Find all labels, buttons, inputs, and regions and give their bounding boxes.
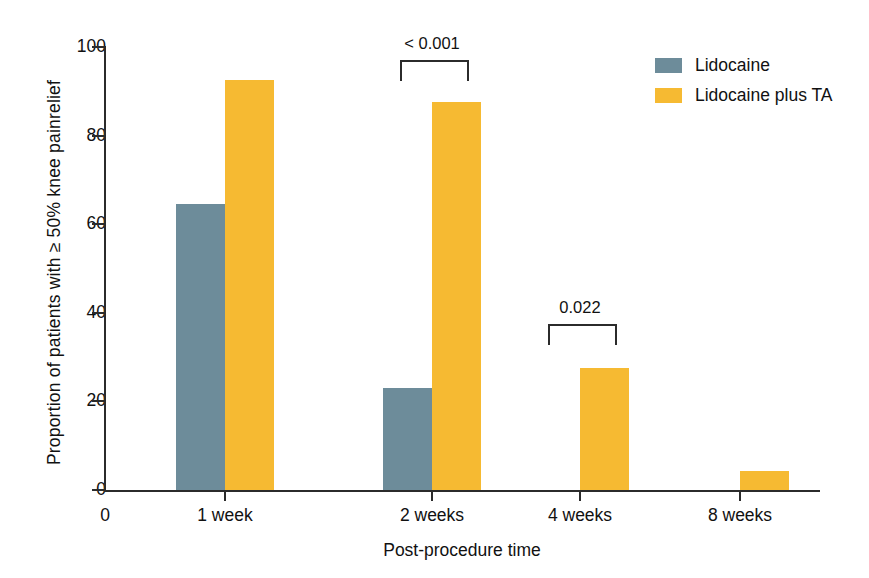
x-tick-mark: [739, 490, 741, 501]
y-axis-line: [104, 47, 106, 491]
legend-item[interactable]: Lidocaine: [655, 55, 833, 76]
x-tick-label: 4 weeks: [548, 505, 612, 526]
bar[interactable]: [383, 388, 432, 490]
y-axis-title: Proportion of patients with ≥ 50% knee p…: [44, 23, 65, 523]
x-axis-title: Post-procedure time: [104, 540, 820, 561]
bar[interactable]: [432, 102, 481, 490]
p-value-label: 0.022: [559, 298, 600, 317]
legend-label: Lidocaine: [695, 55, 770, 76]
legend-item[interactable]: Lidocaine plus TA: [655, 85, 833, 106]
legend-swatch-lidocaine-plus-ta: [655, 88, 682, 103]
x-tick-mark: [431, 490, 433, 501]
x-tick-label: 1 week: [197, 505, 252, 526]
x-axis-line: [104, 490, 820, 492]
x-tick-mark: [224, 490, 226, 501]
bar[interactable]: [176, 204, 225, 490]
bar[interactable]: [580, 368, 629, 490]
bar[interactable]: [740, 471, 789, 490]
x-tick-mark: [579, 490, 581, 501]
legend: Lidocaine Lidocaine plus TA: [655, 55, 833, 115]
legend-swatch-lidocaine: [655, 58, 682, 73]
x-tick-label: 8 weeks: [708, 505, 772, 526]
significance-bracket: [548, 324, 617, 345]
x-tick-label-origin: 0: [100, 505, 110, 526]
bar[interactable]: [225, 80, 274, 490]
x-tick-label: 2 weeks: [400, 505, 464, 526]
bar-chart-figure: Proportion of patients with ≥ 50% knee p…: [0, 0, 869, 578]
significance-bracket: [400, 60, 469, 81]
legend-label: Lidocaine plus TA: [695, 85, 833, 106]
p-value-label: < 0.001: [404, 34, 460, 53]
